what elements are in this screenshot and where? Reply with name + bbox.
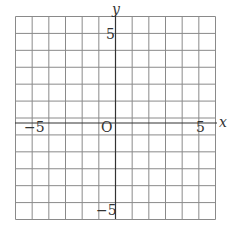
tick-label-y-5: 5 — [106, 27, 115, 41]
origin-label: O — [101, 120, 112, 134]
tick-label-x-neg5: −5 — [24, 120, 45, 134]
grid-canvas — [0, 0, 235, 232]
x-axis-label: x — [219, 115, 227, 129]
tick-label-y-neg5: −5 — [96, 203, 117, 217]
y-axis-label: y — [112, 2, 120, 16]
tick-label-x-5: 5 — [196, 120, 205, 134]
